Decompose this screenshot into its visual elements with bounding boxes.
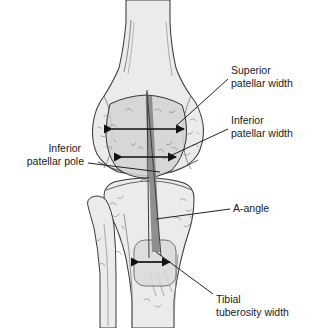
label-a-angle-line-1: A-angle bbox=[233, 202, 269, 214]
label-inferior-patellar-width-line-2: patellar width bbox=[231, 127, 293, 139]
label-tibial-tuberosity-width-line-1: Tibial bbox=[216, 293, 241, 305]
label-inferior-patellar-pole-line-2: patellar pole bbox=[27, 155, 84, 167]
label-inferior-patellar-pole-line-1: Inferior bbox=[48, 142, 81, 154]
label-superior-patellar-width-line-2: patellar width bbox=[231, 77, 293, 89]
label-inferior-patellar-width-line-1: Inferior bbox=[231, 114, 264, 126]
diagram-canvas: Superior patellar width Inferior patella… bbox=[0, 0, 316, 328]
knee-a-angle-diagram: Superior patellar width Inferior patella… bbox=[0, 0, 316, 328]
patella bbox=[106, 95, 187, 178]
label-a-angle: A-angle bbox=[233, 202, 269, 214]
label-superior-patellar-width-line-1: Superior bbox=[231, 64, 271, 76]
label-tibial-tuberosity-width-line-2: tuberosity width bbox=[216, 306, 289, 318]
